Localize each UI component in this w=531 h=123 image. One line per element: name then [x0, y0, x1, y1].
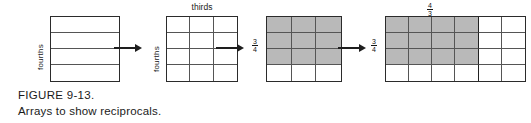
- array-cell: [432, 49, 455, 65]
- array-cell: [167, 65, 190, 81]
- arrow-2: [216, 43, 244, 53]
- figure-caption-title: FIGURE 9-13.: [18, 88, 438, 102]
- array-four-thirds-grid: [385, 16, 526, 82]
- array-cell: [479, 49, 502, 65]
- array-cell: [190, 65, 213, 81]
- array-cell: [386, 49, 409, 65]
- figure-9-13: fourths thirds fourths 3 4: [0, 0, 531, 123]
- array-fourths-by-thirds-side-label: fourths: [152, 24, 161, 72]
- array-cell: [51, 65, 119, 81]
- array-cell: [502, 17, 525, 33]
- arrow-3-shaft: [338, 47, 359, 48]
- array-three-fourths: 3 4: [250, 0, 350, 90]
- arrays-diagram: fourths thirds fourths 3 4: [0, 0, 531, 90]
- array-cell: [386, 33, 409, 49]
- fraction-numerator: 3: [252, 38, 258, 45]
- array-cell: [167, 33, 190, 49]
- arrow-2-shaft: [216, 47, 237, 48]
- array-cell: [267, 17, 292, 33]
- array-cell: [214, 17, 237, 33]
- array-cell: [502, 49, 525, 65]
- array-cell: [267, 65, 292, 81]
- array-cell: [292, 33, 317, 49]
- array-four-thirds: 4 3 3 4: [370, 0, 530, 90]
- array-cell: [316, 17, 341, 33]
- array-cell: [432, 65, 455, 81]
- array-cell: [316, 65, 341, 81]
- array-cell: [455, 49, 478, 65]
- fraction-denominator: 4: [252, 45, 258, 53]
- arrow-3-head: [359, 44, 366, 52]
- array-cell: [455, 33, 478, 49]
- arrow-2-head: [237, 44, 244, 52]
- array-cell: [479, 65, 502, 81]
- figure-caption-text: Arrays to show reciprocals.: [18, 104, 438, 118]
- array-thirds-top-label: thirds: [166, 2, 238, 12]
- array-cell: [502, 33, 525, 49]
- array-cell: [386, 65, 409, 81]
- arrow-1-head: [135, 44, 142, 52]
- array-cell: [267, 49, 292, 65]
- array-cell: [455, 65, 478, 81]
- array-cell: [190, 49, 213, 65]
- fraction-denominator: 4: [371, 45, 377, 53]
- array-four-thirds-side-fraction: 3 4: [371, 38, 377, 53]
- array-cell: [409, 65, 432, 81]
- array-cell: [409, 17, 432, 33]
- arrow-1-shaft: [114, 47, 135, 48]
- arrow-1: [114, 43, 142, 53]
- array-cell: [386, 17, 409, 33]
- array-cell: [455, 17, 478, 33]
- array-cell: [167, 17, 190, 33]
- fraction-numerator: 4: [427, 2, 433, 9]
- array-three-fourths-side-fraction: 3 4: [252, 38, 258, 53]
- array-fourths-grid: [50, 16, 120, 82]
- array-cell: [167, 49, 190, 65]
- array-cell: [51, 17, 119, 33]
- array-cell: [479, 17, 502, 33]
- array-cell: [292, 49, 317, 65]
- array-cell: [502, 65, 525, 81]
- array-cell: [292, 17, 317, 33]
- array-three-fourths-grid: [266, 16, 342, 82]
- array-four-thirds-top-fraction: 4 3: [427, 2, 433, 17]
- array-cell: [432, 17, 455, 33]
- array-cell: [292, 65, 317, 81]
- array-cell: [409, 33, 432, 49]
- array-cell: [267, 33, 292, 49]
- array-cell: [214, 65, 237, 81]
- array-fourths: fourths: [18, 0, 110, 90]
- array-cell: [479, 33, 502, 49]
- array-cell: [432, 33, 455, 49]
- array-cell: [190, 33, 213, 49]
- array-cell: [190, 17, 213, 33]
- arrow-3: [338, 43, 366, 53]
- figure-caption: FIGURE 9-13. Arrays to show reciprocals.: [18, 88, 438, 118]
- array-cell: [51, 33, 119, 49]
- fraction-numerator: 3: [371, 38, 377, 45]
- array-fourths-side-label: fourths: [36, 22, 45, 70]
- array-cell: [409, 49, 432, 65]
- array-cell: [51, 49, 119, 65]
